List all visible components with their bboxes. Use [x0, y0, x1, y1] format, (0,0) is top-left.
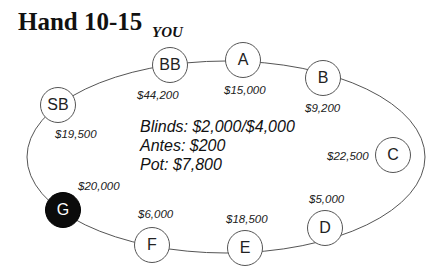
- stack-d: $5,000: [309, 193, 344, 205]
- stack-g: $20,000: [78, 180, 120, 192]
- seat-c: C: [375, 137, 411, 173]
- stack-e: $18,500: [226, 213, 268, 225]
- stack-b: $9,200: [305, 102, 340, 114]
- blinds-text: Blinds: $2,000/$4,000: [140, 117, 295, 136]
- hand-info: Blinds: $2,000/$4,000 Antes: $200 Pot: $…: [140, 117, 295, 174]
- stack-bb: $44,200: [137, 89, 179, 101]
- seat-sb: SB: [40, 87, 76, 123]
- hand-title: Hand 10-15: [18, 8, 142, 36]
- stack-c: $22,500: [327, 150, 369, 162]
- stack-a: $15,000: [224, 84, 266, 96]
- seat-e: E: [227, 230, 263, 266]
- seat-d: D: [307, 210, 343, 246]
- stack-f: $6,000: [138, 208, 173, 220]
- hero-label: YOU: [152, 24, 183, 41]
- seat-a: A: [225, 42, 261, 78]
- seat-b: B: [305, 60, 341, 96]
- seat-g-highlighted: G: [45, 192, 81, 228]
- pot-text: Pot: $7,800: [140, 155, 295, 174]
- stack-sb: $19,500: [55, 128, 97, 140]
- poker-table-diagram: Hand 10-15 YOU Blinds: $2,000/$4,000 Ant…: [0, 0, 427, 280]
- seat-f: F: [134, 227, 170, 263]
- antes-text: Antes: $200: [140, 136, 295, 155]
- seat-bb: BB: [152, 47, 188, 83]
